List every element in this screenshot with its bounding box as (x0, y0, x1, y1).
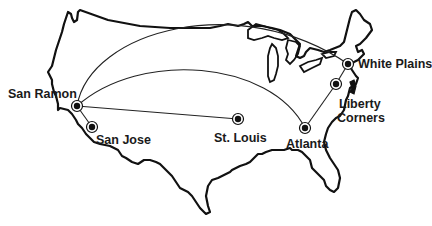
link-sanramon-atlanta (77, 70, 305, 128)
lake-michigan (268, 44, 278, 82)
label-san-jose: San Jose (96, 134, 151, 147)
label-san-ramon: San Ramon (8, 88, 77, 101)
us-outline (48, 10, 372, 214)
link-sanramon-whiteplains (77, 25, 348, 106)
label-atlanta: Atlanta (286, 138, 328, 151)
site-marker-st-louis[interactable] (233, 114, 244, 125)
site-marker-san-ramon[interactable] (72, 101, 83, 112)
label-white-plains: White Plains (358, 58, 432, 71)
site-marker-atlanta[interactable] (300, 123, 311, 134)
site-marker-san-jose[interactable] (87, 122, 98, 133)
site-marker-white-plains[interactable] (343, 59, 354, 70)
label-liberty-corners-line2: Corners (337, 112, 385, 125)
lake-erie (300, 58, 322, 72)
lake-huron (286, 40, 300, 64)
link-sanramon-stlouis (77, 106, 238, 119)
lake-superior (248, 24, 288, 40)
network-links (77, 25, 348, 128)
label-st-louis: St. Louis (214, 132, 267, 145)
label-liberty-corners-line1: Liberty (339, 98, 381, 111)
site-marker-liberty-corners[interactable] (331, 79, 342, 90)
us-network-map: San Ramon San Jose St. Louis Atlanta Whi… (0, 0, 432, 226)
